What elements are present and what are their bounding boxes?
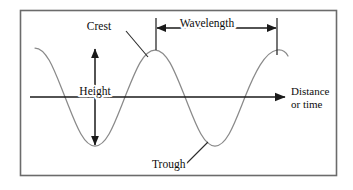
figure-border <box>21 11 337 176</box>
trough-label: Trough <box>152 158 186 171</box>
wave-diagram-figure: Wavelength Wavelength Crest Crest Height… <box>0 0 353 190</box>
axis-label-distance: Distance <box>291 85 330 97</box>
crest-label: Crest <box>87 20 112 32</box>
height-label: Height <box>79 85 111 98</box>
wavelength-label: Wavelength <box>180 17 235 30</box>
wave-diagram-svg: Wavelength Wavelength Crest Crest Height… <box>0 0 353 190</box>
axis-label-or-time: or time <box>291 98 323 110</box>
